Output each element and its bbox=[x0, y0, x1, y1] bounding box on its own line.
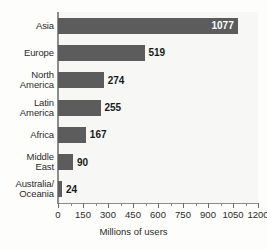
x-tick-major bbox=[208, 203, 209, 208]
x-tick-label: 750 bbox=[175, 209, 191, 220]
bar-track: 274 bbox=[58, 67, 267, 94]
category-label: Middle East bbox=[0, 152, 58, 172]
category-label: Europe bbox=[0, 48, 58, 58]
x-tick-minor bbox=[71, 203, 72, 206]
x-tick-label: 0 bbox=[55, 209, 60, 220]
category-label: Australia/ Oceania bbox=[0, 179, 58, 199]
x-tick-minor bbox=[146, 203, 147, 206]
bar-value-label: 255 bbox=[105, 102, 122, 113]
category-label: Africa bbox=[0, 130, 58, 140]
bar-value-label: 90 bbox=[77, 157, 88, 168]
x-tick-major bbox=[83, 203, 84, 208]
category-label: North America bbox=[0, 70, 58, 90]
bar-value-label: 24 bbox=[66, 184, 77, 195]
x-tick-minor bbox=[246, 203, 247, 206]
bar bbox=[58, 154, 73, 170]
category-label: Asia bbox=[0, 21, 58, 31]
bar-value-label: 167 bbox=[90, 129, 107, 140]
x-tick-minor bbox=[221, 203, 222, 206]
x-tick-major bbox=[133, 203, 134, 208]
bar bbox=[58, 100, 101, 116]
x-axis-title: Millions of users bbox=[0, 226, 267, 237]
x-tick-minor bbox=[121, 203, 122, 206]
x-tick-major bbox=[183, 203, 184, 208]
bar bbox=[58, 181, 62, 197]
bar bbox=[58, 72, 104, 88]
bar-chart: Asia1077Europe519North America274Latin A… bbox=[0, 0, 267, 250]
bar-value-label: 519 bbox=[149, 47, 166, 58]
bar-track: 167 bbox=[58, 121, 267, 148]
bar-value-label: 1077 bbox=[212, 20, 234, 31]
bar-row: Africa167 bbox=[0, 121, 267, 148]
bar-track: 90 bbox=[58, 149, 267, 176]
bar-track: 1077 bbox=[58, 12, 267, 39]
x-tick-major bbox=[58, 203, 59, 208]
bar bbox=[58, 45, 145, 61]
x-tick-label: 300 bbox=[100, 209, 116, 220]
bar-row: Middle East90 bbox=[0, 149, 267, 176]
bar-row: Asia1077 bbox=[0, 12, 267, 39]
x-tick-label: 600 bbox=[150, 209, 166, 220]
bar-value-label: 274 bbox=[108, 75, 125, 86]
x-tick-label: 1200 bbox=[247, 209, 267, 220]
bar-row: Latin America255 bbox=[0, 94, 267, 121]
x-tick-minor bbox=[96, 203, 97, 206]
x-tick-label: 900 bbox=[200, 209, 216, 220]
x-tick-major bbox=[158, 203, 159, 208]
x-tick-minor bbox=[171, 203, 172, 206]
bar bbox=[58, 127, 86, 143]
bar-track: 24 bbox=[58, 176, 267, 203]
bar-row: Australia/ Oceania24 bbox=[0, 176, 267, 203]
category-label: Latin America bbox=[0, 98, 58, 118]
bar-track: 255 bbox=[58, 94, 267, 121]
bar-row: Europe519 bbox=[0, 39, 267, 66]
x-tick-major bbox=[108, 203, 109, 208]
x-tick-minor bbox=[196, 203, 197, 206]
x-tick-label: 150 bbox=[75, 209, 91, 220]
x-tick-label: 1050 bbox=[222, 209, 243, 220]
x-tick-label: 450 bbox=[125, 209, 141, 220]
x-tick-major bbox=[258, 203, 259, 208]
x-tick-major bbox=[233, 203, 234, 208]
bar-row: North America274 bbox=[0, 67, 267, 94]
bar-track: 519 bbox=[58, 39, 267, 66]
